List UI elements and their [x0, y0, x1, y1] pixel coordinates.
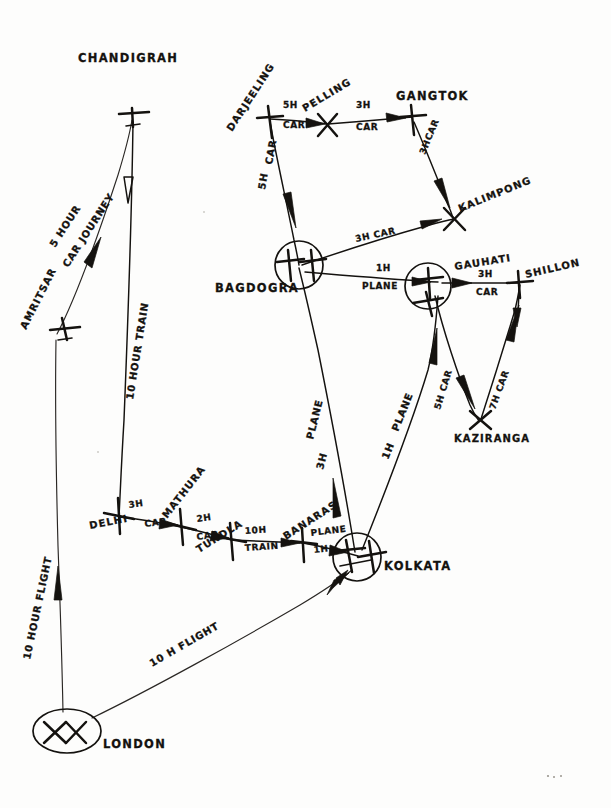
- leg-label-kolkata-gauhati-hours: 1H: [380, 441, 397, 461]
- leg-label-mathura-tundla-hours: 2H: [196, 512, 212, 524]
- route-chandigrah-delhi: [119, 122, 133, 516]
- label-darjeeling: DARJEELING: [224, 61, 276, 133]
- label-kalimpong: KALIMPONG: [457, 174, 533, 213]
- leg-label-kolkata-bagdogra-hours: 3H: [314, 451, 329, 470]
- leg-label-darjeeling-bagdogra-mode: CAR: [263, 139, 278, 166]
- label-delhi: DELHI: [88, 513, 128, 531]
- leg-label-kolkata-bagdogra-mode: PLANE: [304, 398, 325, 440]
- leg-label-tundla-banaras-mode: TRAIN: [244, 541, 279, 553]
- node-gangtok: [400, 105, 426, 135]
- leg-label-gauhati-shillong-hours: 3H: [478, 269, 493, 279]
- leg-label-tundla-banaras-hours: 10H: [244, 524, 267, 536]
- label-shillong: SHILLON: [524, 257, 581, 280]
- node-kolkata: [333, 533, 386, 581]
- leg-label-kolkata-gauhati-mode: PLANE: [390, 391, 415, 433]
- label-london: LONDON: [103, 737, 166, 751]
- node-gauhati: [405, 263, 451, 316]
- label-pelling: PELLING: [300, 76, 353, 114]
- leg-label-pelling-gangtok-hours: 3H: [356, 100, 371, 110]
- label-mathura: MATHURA: [160, 464, 208, 521]
- leg-label-gauhati-kaziranga: 5H CAR: [432, 368, 454, 410]
- leg-label-gangtok-kalimpong: 3HCAR: [418, 117, 441, 155]
- label-kolkata: KOLKATA: [384, 559, 451, 573]
- leg-label-london-amritsar: 10 HOUR FLIGHT: [21, 555, 54, 660]
- label-amritsar: AMRITSAR: [18, 266, 58, 331]
- node-amritsar: [50, 318, 80, 340]
- route-diagram-sheet: CHANDIGRAH AMRITSAR LONDON DELHI MATHURA…: [0, 0, 611, 808]
- node-darjeeling: [257, 106, 283, 138]
- route-london-kolkata: [92, 570, 352, 718]
- hand-drawn-route-map: CHANDIGRAH AMRITSAR LONDON DELHI MATHURA…: [0, 0, 611, 808]
- leg-label-banaras-kolkata-hours: 1H: [313, 543, 329, 555]
- leg-label-bagdogra-gauhati-mode: PLANE: [362, 281, 398, 291]
- leg-label-darjeeling-pelling-hours: 5H: [283, 100, 298, 110]
- node-london: [33, 709, 101, 753]
- label-kaziranga: KAZIRANGA: [454, 433, 530, 444]
- leg-label-darjeeling-bagdogra-hours: 5H: [256, 172, 270, 191]
- leg-label-pelling-gangtok-mode: CAR: [356, 122, 378, 132]
- leg-label-banaras-kolkata-mode: PLANE: [310, 524, 347, 538]
- node-kaziranga: [470, 411, 491, 429]
- node-chandigrah: [119, 108, 149, 127]
- leg-label-darjeeling-pelling-mode: CAR: [283, 120, 305, 130]
- route-london-amritsar: [54, 340, 63, 712]
- leg-label-gauhati-shillong-mode: CAR: [476, 287, 498, 297]
- label-chandigrah: CHANDIGRAH: [78, 51, 178, 65]
- leg-label-delhi-mathura-hours: 3H: [128, 498, 144, 510]
- leg-label-london-kolkata: 10 H FLIGHT: [148, 620, 221, 669]
- label-gangtok: GANGTOK: [396, 89, 469, 103]
- label-bagdogra: BAGDOGRA: [215, 281, 299, 295]
- leg-label-bagdogra-gauhati-hours: 1H: [376, 263, 391, 273]
